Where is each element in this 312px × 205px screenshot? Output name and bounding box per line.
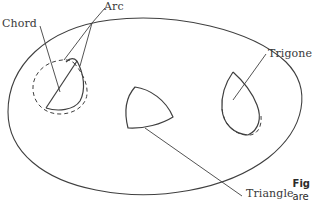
chord-line (46, 61, 77, 108)
arc-notch-line (66, 59, 77, 62)
trigone-left-side (222, 72, 248, 135)
trigone-region-group (222, 72, 261, 135)
triangle-leader-line (145, 128, 242, 196)
label-chord: Chord (2, 18, 37, 29)
caption-line-1: Fig (293, 178, 310, 191)
arc-leader-branch-2 (80, 23, 92, 66)
label-triangle: Triangle (246, 188, 294, 199)
caption-line-2: are (293, 191, 310, 204)
triangle-region-group (126, 87, 173, 128)
trigone-bottom-arc (222, 109, 261, 135)
diagram-canvas (0, 0, 312, 205)
leader-lines-group (40, 8, 266, 196)
chord-arc-region-group (33, 59, 87, 114)
caption-block: Fig are (293, 178, 310, 203)
label-arc: Arc (104, 1, 124, 12)
triangle-region-outline (126, 87, 173, 128)
label-trigone: Trigone (268, 48, 312, 59)
arc-leader-branch-1 (64, 23, 92, 60)
figure-container: Chord Arc Trigone Triangle Fig are (0, 0, 312, 205)
arc-line (46, 61, 84, 110)
